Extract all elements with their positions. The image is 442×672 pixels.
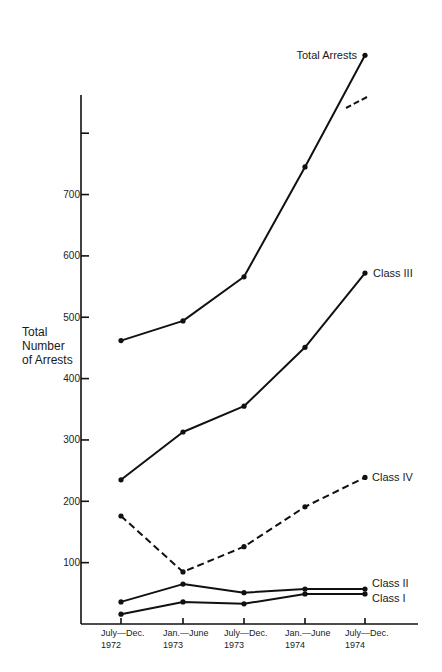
y-axis-title-line: Total <box>22 325 47 339</box>
y-tick-label: 700 <box>63 189 80 200</box>
data-point <box>241 590 246 595</box>
data-point <box>180 582 185 587</box>
data-point <box>362 53 367 58</box>
data-point <box>241 274 246 279</box>
x-tick-label: Jan.—June <box>285 628 331 638</box>
data-point <box>180 429 185 434</box>
series-label: Class III <box>373 267 413 279</box>
data-point <box>118 513 123 518</box>
x-tick-label-year: 1972 <box>101 640 121 650</box>
data-point <box>302 591 307 596</box>
data-point <box>302 345 307 350</box>
series-class-iii: Class III <box>118 267 412 482</box>
series-lines: Total ArrestsClass IIIClass IVClass IICl… <box>118 49 413 617</box>
annotations <box>346 97 367 108</box>
y-axis-title-line: Number <box>22 339 65 353</box>
x-axis: July—Dec.1972Jan.—June1973July—Dec.1973J… <box>81 618 418 650</box>
series-line <box>121 273 365 480</box>
series-label: Class IV <box>372 471 414 483</box>
data-point <box>118 599 123 604</box>
x-tick-label-year: 1974 <box>285 640 305 650</box>
data-point <box>302 504 307 509</box>
data-point <box>241 544 246 549</box>
series-line <box>121 55 365 340</box>
arrests-line-chart: 100200300400500600700 July—Dec.1972Jan.—… <box>0 0 442 672</box>
y-axis-title: TotalNumberof Arrests <box>22 325 73 367</box>
series-label: Total Arrests <box>296 49 357 61</box>
data-point <box>118 338 123 343</box>
data-point <box>362 271 367 276</box>
series-line <box>121 477 365 572</box>
data-point <box>180 599 185 604</box>
series-label: Class II <box>372 577 409 589</box>
data-point <box>241 601 246 606</box>
y-axis-title-line: of Arrests <box>22 353 73 367</box>
series-class-i: Class I <box>118 591 405 617</box>
data-point <box>362 586 367 591</box>
data-point <box>118 477 123 482</box>
data-point <box>180 318 185 323</box>
y-tick-label: 200 <box>63 496 80 507</box>
dashed-pointer-mark <box>346 97 367 108</box>
series-class-iv: Class IV <box>118 471 413 574</box>
x-tick-label: July—Dec. <box>101 628 145 638</box>
x-tick-label: July—Dec. <box>345 628 389 638</box>
y-tick-label: 300 <box>63 434 80 445</box>
series-label: Class I <box>372 592 406 604</box>
data-point <box>180 569 185 574</box>
data-point <box>302 586 307 591</box>
x-tick-label-year: 1974 <box>345 640 365 650</box>
series-total-arrests: Total Arrests <box>118 49 367 343</box>
x-tick-label-year: 1973 <box>224 640 244 650</box>
x-tick-label-year: 1973 <box>163 640 183 650</box>
y-tick-label: 500 <box>63 312 80 323</box>
data-point <box>241 404 246 409</box>
x-tick-label: July—Dec. <box>224 628 268 638</box>
x-tick-label: Jan.—June <box>163 628 209 638</box>
y-tick-label: 600 <box>63 250 80 261</box>
data-point <box>302 164 307 169</box>
y-tick-label: 400 <box>63 373 80 384</box>
data-point <box>362 591 367 596</box>
data-point <box>118 612 123 617</box>
data-point <box>362 475 367 480</box>
y-tick-label: 100 <box>63 557 80 568</box>
